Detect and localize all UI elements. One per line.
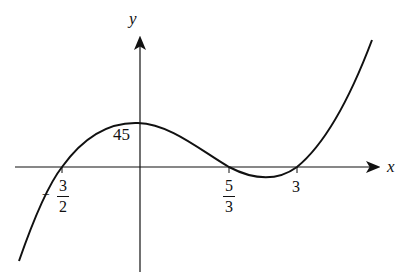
y-intercept-label: 45 <box>113 126 130 143</box>
root1-label: 3 2 <box>57 178 69 215</box>
fraction-bar <box>223 196 235 197</box>
root2-numerator: 5 <box>225 178 233 194</box>
root3-label: 3 <box>292 179 300 195</box>
root1-sign: − <box>42 188 50 202</box>
root2-denominator: 3 <box>225 199 233 215</box>
cubic-curve <box>19 40 372 261</box>
root1-numerator: 3 <box>59 178 67 194</box>
graph-canvas <box>0 0 402 274</box>
x-axis-label: x <box>387 158 395 175</box>
fraction-bar <box>57 196 69 197</box>
y-axis-label: y <box>129 10 137 27</box>
root1-denominator: 2 <box>59 199 67 215</box>
root2-label: 5 3 <box>223 178 235 215</box>
